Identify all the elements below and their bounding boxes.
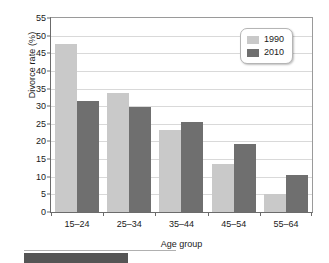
bar-1990-45-54 — [212, 164, 234, 212]
bar-2010-55-64 — [286, 175, 308, 212]
x-tick-label: 15–24 — [65, 219, 90, 229]
y-tick-label: 40 — [36, 66, 46, 75]
y-tick-label: 55 — [36, 14, 46, 23]
bar-2010-25-34 — [129, 107, 151, 212]
bar-1990-35-44 — [159, 130, 181, 212]
y-tick-label: 35 — [36, 84, 46, 93]
bar-1990-25-34 — [107, 93, 129, 212]
x-tick-mark — [208, 212, 209, 216]
x-tick-mark — [51, 212, 52, 216]
y-tick-label: 25 — [36, 119, 46, 128]
x-tick-label: 55–64 — [273, 219, 298, 229]
bar-2010-45-54 — [234, 144, 256, 212]
legend-swatch-1990 — [247, 36, 259, 44]
x-tick-mark — [155, 212, 156, 216]
y-tick-label: 50 — [36, 31, 46, 40]
x-tick-mark — [103, 212, 104, 216]
divorce-rate-bar-chart: Divorce rate (%) 0510152025303540455055 … — [0, 0, 329, 263]
y-tick-label: 20 — [36, 137, 46, 146]
x-tick-label: 25–34 — [117, 219, 142, 229]
x-tick-mark — [260, 212, 261, 216]
bar-2010-15-24 — [77, 101, 99, 212]
legend-item-1990: 1990 — [247, 33, 284, 46]
x-tick-mark — [311, 212, 312, 216]
page-bottom-strip — [24, 253, 128, 263]
chart-legend: 1990 2010 — [240, 28, 293, 64]
y-tick-label: 5 — [41, 190, 46, 199]
bar-1990-55-64 — [264, 194, 286, 212]
x-tick-label: 35–44 — [169, 219, 194, 229]
bar-group — [155, 18, 207, 212]
page-divider-rule — [24, 250, 176, 251]
y-tick-label: 45 — [36, 49, 46, 58]
y-tick-label: 15 — [36, 155, 46, 164]
x-tick-label: 45–54 — [221, 219, 246, 229]
legend-item-2010: 2010 — [247, 46, 284, 59]
bar-group — [103, 18, 155, 212]
bar-group — [51, 18, 103, 212]
legend-label-2010: 2010 — [264, 48, 284, 57]
legend-swatch-2010 — [247, 49, 259, 57]
legend-label-1990: 1990 — [264, 35, 284, 44]
x-axis-title: Age group — [50, 239, 313, 249]
bar-1990-15-24 — [55, 44, 77, 212]
bar-2010-35-44 — [181, 122, 203, 212]
y-tick-label: 30 — [36, 102, 46, 111]
y-tick-label: 0 — [41, 208, 46, 217]
y-tick-label: 10 — [36, 172, 46, 181]
